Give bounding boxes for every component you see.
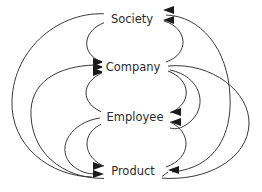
edge-employee-to-company-inner <box>168 71 186 113</box>
edge-society-to-product <box>12 14 108 177</box>
node-label-employee: Employee <box>107 110 164 124</box>
edge-company-to-society-inner <box>164 21 183 62</box>
node-label-society: Society <box>111 12 153 26</box>
relationship-diagram: Society Company Employee Product <box>0 0 262 192</box>
edge-employee-to-product-inner <box>87 123 106 167</box>
diagram-canvas: Society Company Employee Product <box>0 0 262 192</box>
arrowhead-into-product-right <box>168 166 179 174</box>
arrowhead-into-employee-upper <box>170 108 181 116</box>
node-label-product: Product <box>111 164 155 178</box>
node-label-company: Company <box>106 60 161 74</box>
arrowhead-into-product-lower <box>93 170 104 178</box>
edge-society-to-company-inner <box>87 22 106 62</box>
arrowhead-into-society-upper <box>163 6 174 14</box>
edge-company-to-employee-inner <box>86 72 104 113</box>
edge-product-to-society <box>166 15 230 172</box>
